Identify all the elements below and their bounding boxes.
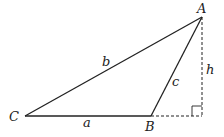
side-label-b: b (102, 54, 110, 69)
side-label-c: c (172, 74, 180, 89)
altitude-label-h: h (206, 62, 214, 77)
triangle-diagram: A B C a b c h (0, 0, 224, 137)
side-label-a: a (83, 115, 91, 130)
right-angle-marker (192, 106, 202, 116)
vertex-label-c: C (9, 109, 19, 124)
vertex-label-a: A (196, 1, 206, 16)
vertex-label-b: B (144, 119, 155, 134)
side-b (25, 17, 202, 116)
